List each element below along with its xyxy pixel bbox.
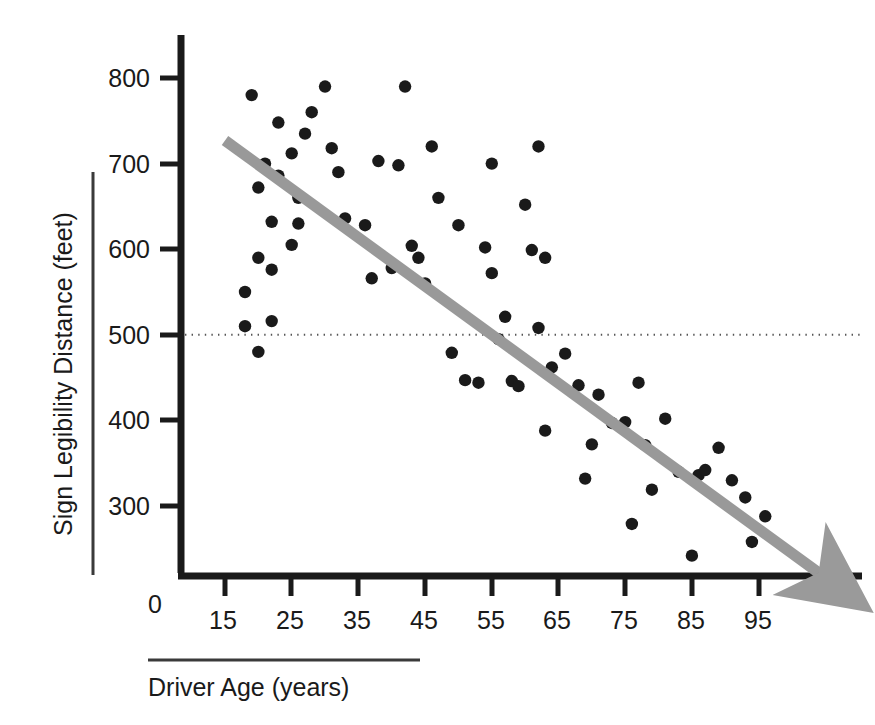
scatter-point [526, 244, 538, 256]
x-tick-label-45: 45 [410, 606, 438, 634]
scatter-point [245, 89, 257, 101]
scatter-point [559, 347, 571, 359]
scatter-point [252, 181, 264, 193]
scatter-point [399, 80, 411, 92]
x-axis-tick-labels: 15 25 35 45 55 65 75 85 95 [209, 606, 772, 634]
scatter-point [286, 147, 298, 159]
scatter-point [239, 286, 251, 298]
y-tick-label-400: 400 [108, 406, 150, 434]
chart-canvas: 800 700 600 500 400 300 0 15 25 35 45 [0, 0, 875, 725]
y-tick-label-500: 500 [108, 321, 150, 349]
scatter-point [539, 424, 551, 436]
scatter-point [252, 346, 264, 358]
scatter-point [512, 380, 524, 392]
x-axis-title: Driver Age (years) [148, 673, 349, 701]
y-tick-label-600: 600 [108, 235, 150, 263]
scatter-point [239, 320, 251, 332]
y-axis-tick-labels: 800 700 600 500 400 300 [108, 64, 150, 520]
x-tick-label-75: 75 [610, 606, 638, 634]
scatter-point [626, 518, 638, 530]
scatter-point [265, 264, 277, 276]
scatter-point [532, 322, 544, 334]
scatter-point [326, 142, 338, 154]
scatter-points-layer [239, 80, 772, 561]
scatter-point [272, 116, 284, 128]
scatter-point [519, 198, 531, 210]
scatter-point [286, 239, 298, 251]
x-tick-label-85: 85 [677, 606, 705, 634]
scatter-point [739, 491, 751, 503]
scatter-point [539, 252, 551, 264]
scatter-point [306, 106, 318, 118]
scatter-point [412, 252, 424, 264]
scatter-point [372, 155, 384, 167]
scatter-point [592, 389, 604, 401]
x-tick-label-95: 95 [744, 606, 772, 634]
scatter-point [759, 510, 771, 522]
scatter-point [265, 216, 277, 228]
origin-zero-label: 0 [148, 590, 162, 618]
scatter-point [459, 374, 471, 386]
x-tick-label-15: 15 [209, 606, 237, 634]
scatter-point [446, 347, 458, 359]
scatter-point [532, 140, 544, 152]
scatter-point [699, 464, 711, 476]
scatter-point [292, 217, 304, 229]
scatter-point [452, 219, 464, 231]
scatter-point [252, 252, 264, 264]
scatter-point [686, 549, 698, 561]
y-tick-label-800: 800 [108, 64, 150, 92]
scatter-point [359, 219, 371, 231]
scatter-point [319, 80, 331, 92]
scatter-point [646, 484, 658, 496]
y-axis-title: Sign Legibility Distance (feet) [49, 212, 77, 536]
scatter-point [486, 157, 498, 169]
x-tick-label-25: 25 [276, 606, 304, 634]
scatter-point [712, 442, 724, 454]
x-tick-label-65: 65 [543, 606, 571, 634]
scatter-point [432, 192, 444, 204]
scatter-point [579, 472, 591, 484]
scatter-point [659, 412, 671, 424]
scatter-point [299, 127, 311, 139]
x-tick-label-35: 35 [343, 606, 371, 634]
scatter-point [726, 474, 738, 486]
scatter-point [426, 140, 438, 152]
scatter-point [746, 536, 758, 548]
scatter-point [472, 377, 484, 389]
x-tick-label-55: 55 [477, 606, 505, 634]
y-tick-label-700: 700 [108, 150, 150, 178]
scatter-point [632, 377, 644, 389]
scatter-point [586, 438, 598, 450]
y-tick-label-300: 300 [108, 492, 150, 520]
scatter-point [479, 241, 491, 253]
scatter-point [392, 159, 404, 171]
scatter-point [366, 272, 378, 284]
scatter-plot-figure: 800 700 600 500 400 300 0 15 25 35 45 [0, 0, 875, 725]
scatter-point [486, 267, 498, 279]
scatter-point [332, 166, 344, 178]
scatter-point [406, 240, 418, 252]
scatter-point [499, 311, 511, 323]
scatter-point [265, 315, 277, 327]
